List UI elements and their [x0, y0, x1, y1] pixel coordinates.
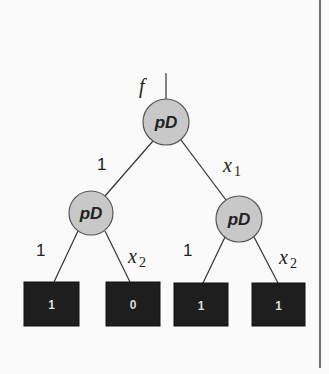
decision-diagram: f 1x11x21x2 pDpDpD 1011	[0, 0, 329, 374]
edge-label-variable: x	[127, 245, 137, 267]
edge-label-subscript: 2	[290, 256, 297, 271]
function-label-f: f	[139, 75, 147, 98]
edge-label: 1	[183, 241, 192, 260]
edge-label-subscript: 1	[234, 164, 241, 179]
node-label: pD	[154, 113, 178, 132]
edge-root-left	[105, 141, 153, 196]
edge-root-right	[181, 140, 226, 200]
edge-right-leaf3	[203, 237, 225, 283]
node-label: pD	[227, 210, 251, 229]
edge-label-variable: x	[278, 246, 288, 268]
terminal-value: 1	[48, 298, 55, 312]
terminal-value: 1	[275, 299, 282, 313]
node-left: pD	[69, 191, 113, 235]
edge-label-subscript: 2	[139, 255, 146, 270]
edge-label: 1	[36, 241, 45, 260]
edge-right-leaf4	[254, 237, 278, 283]
terminal-value: 0	[130, 298, 137, 312]
edge-left-leaf1	[54, 231, 78, 282]
edge-left-leaf2	[105, 231, 130, 282]
diagram-canvas: f 1x11x21x2 pDpDpD 1011	[0, 0, 329, 374]
terminal-leaf4: 1	[252, 283, 305, 326]
leaves-group: 1011	[24, 282, 305, 326]
node-label: pD	[79, 204, 103, 223]
terminal-value: 1	[198, 299, 205, 313]
edge-label: 1	[97, 155, 106, 174]
node-right: pD	[216, 196, 262, 242]
edge-label-variable: x	[222, 154, 232, 176]
terminal-leaf3: 1	[174, 283, 228, 326]
terminal-leaf1: 1	[24, 282, 79, 326]
terminal-leaf2: 0	[106, 282, 160, 326]
node-root: pD	[143, 99, 189, 145]
